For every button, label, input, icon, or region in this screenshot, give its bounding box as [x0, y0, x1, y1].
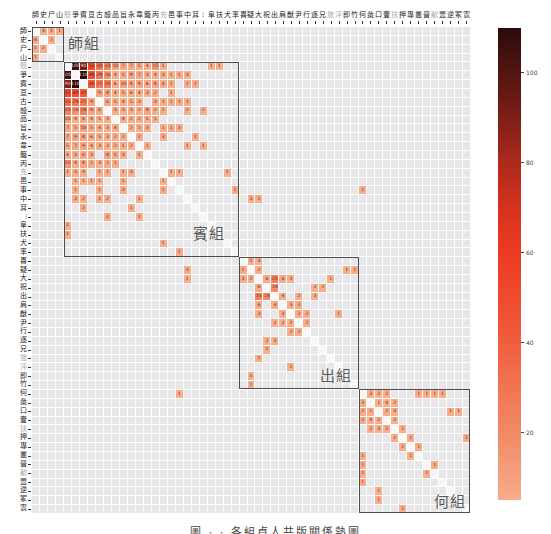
heatmap-cell: 9 [128, 71, 135, 79]
heatmap-cell-diagonal [248, 266, 255, 274]
heatmap-cell [32, 337, 39, 345]
heatmap-cell [144, 284, 151, 292]
heatmap-cell [399, 328, 406, 336]
heatmap-cell [248, 479, 255, 487]
heatmap-cell [431, 328, 438, 336]
heatmap-cell [271, 346, 278, 354]
heatmap-cell: 9 [80, 142, 87, 150]
heatmap-cell [168, 390, 175, 398]
heatmap-cell [407, 301, 414, 309]
heatmap-cell [311, 142, 318, 150]
heatmap-cell [271, 178, 278, 186]
heatmap-cell [240, 169, 247, 177]
heatmap-cell [423, 107, 430, 115]
heatmap-cell [287, 98, 294, 106]
heatmap-cell [192, 89, 199, 97]
heatmap-cell [463, 355, 470, 363]
heatmap-cell [383, 443, 390, 451]
heatmap-cell [415, 275, 422, 283]
heatmap-cell [80, 496, 87, 504]
heatmap-cell [104, 328, 111, 336]
heatmap-cell [431, 372, 438, 380]
heatmap-cell [447, 461, 454, 469]
heatmap-cell: 2 [383, 390, 390, 398]
heatmap-cell [295, 434, 302, 442]
heatmap-cell [319, 301, 326, 309]
heatmap-cell [224, 355, 231, 363]
heatmap-cell [359, 62, 366, 70]
heatmap-cell [343, 425, 350, 433]
heatmap-cell [72, 417, 79, 425]
heatmap-cell [311, 372, 318, 380]
heatmap-cell: 3 [184, 266, 191, 274]
heatmap-cell [295, 169, 302, 177]
heatmap-cell [295, 186, 302, 194]
heatmap-cell-diagonal [56, 54, 63, 62]
heatmap-cell: 2 [200, 107, 207, 115]
heatmap-cell [311, 425, 318, 433]
heatmap-cell [279, 71, 286, 79]
heatmap-cell [160, 425, 167, 433]
heatmap-cell [136, 319, 143, 327]
heatmap-cell: 1 [96, 178, 103, 186]
heatmap-cell [327, 133, 334, 141]
heatmap-cell [407, 89, 414, 97]
heatmap-cell: 1 [455, 408, 462, 416]
heatmap-cell [399, 417, 406, 425]
heatmap-cell [399, 204, 406, 212]
heatmap-cell [263, 487, 270, 495]
heatmap-cell [152, 266, 159, 274]
heatmap-cell [72, 240, 79, 248]
heatmap-cell [104, 222, 111, 230]
heatmap-cell [415, 301, 422, 309]
heatmap-cell [232, 425, 239, 433]
heatmap-cell [343, 178, 350, 186]
heatmap-cell [415, 372, 422, 380]
heatmap-cell: 4 [152, 71, 159, 79]
heatmap-cell [40, 443, 47, 451]
heatmap-cell [144, 222, 151, 230]
heatmap-cell [160, 160, 167, 168]
heatmap-cell [415, 240, 422, 248]
heatmap-cell [439, 399, 446, 407]
heatmap-cell [80, 293, 87, 301]
heatmap-cell [136, 470, 143, 478]
heatmap-cell [184, 434, 191, 442]
heatmap-cell [399, 160, 406, 168]
heatmap-cell: 2 [136, 116, 143, 124]
heatmap-cell: 2 [295, 328, 302, 336]
heatmap-cell [248, 328, 255, 336]
heatmap-cell [263, 319, 270, 327]
heatmap-cell [351, 186, 358, 194]
heatmap-cell [96, 434, 103, 442]
heatmap-cell [415, 71, 422, 79]
heatmap-cell [439, 443, 446, 451]
heatmap-cell [88, 381, 95, 389]
heatmap-cell [120, 479, 127, 487]
heatmap-cell [415, 399, 422, 407]
heatmap-cell [367, 257, 374, 265]
heatmap-cell [184, 284, 191, 292]
heatmap-cell [200, 434, 207, 442]
heatmap-cell [128, 434, 135, 442]
heatmap-cell [407, 266, 414, 274]
heatmap-cell [415, 355, 422, 363]
heatmap-cell [248, 355, 255, 363]
heatmap-cell [56, 98, 63, 106]
heatmap-cell [240, 107, 247, 115]
heatmap-cell [383, 124, 390, 132]
heatmap-cell [327, 257, 334, 265]
heatmap-cell [80, 186, 87, 194]
heatmap-cell [327, 213, 334, 221]
heatmap-cell [431, 240, 438, 248]
heatmap-cell [88, 310, 95, 318]
heatmap-cell [224, 124, 231, 132]
heatmap-cell [32, 328, 39, 336]
heatmap-cell [56, 36, 63, 44]
heatmap-cell [343, 461, 350, 469]
row-label: 押 [0, 433, 32, 442]
heatmap-cell [431, 266, 438, 274]
heatmap-cell [48, 71, 55, 79]
heatmap-cell [399, 71, 406, 79]
heatmap-cell [287, 284, 294, 292]
